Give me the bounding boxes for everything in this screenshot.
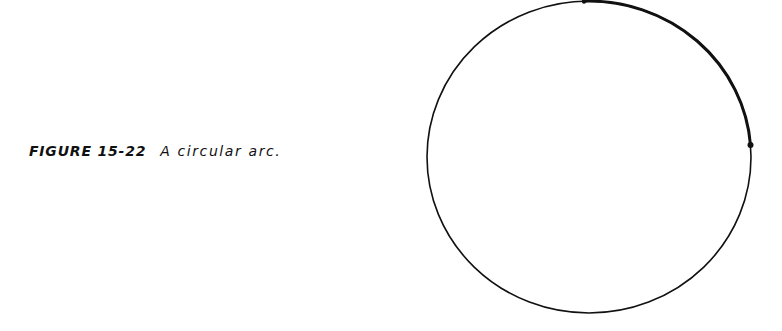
highlighted-arc — [584, 1, 751, 145]
arc-endpoint-right — [748, 142, 754, 148]
circular-arc-figure — [0, 0, 782, 331]
circle — [427, 1, 751, 313]
arc-endpoint-top — [582, 0, 586, 4]
